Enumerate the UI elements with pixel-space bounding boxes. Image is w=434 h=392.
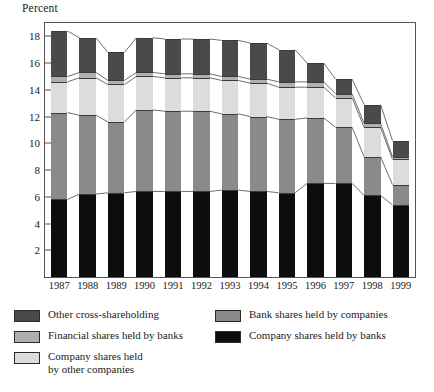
bar-1990 [136,23,153,277]
y-tick-label: 10 [29,137,40,149]
x-tick-label-1989: 1989 [106,280,127,291]
bar-segment [393,159,410,184]
bar-segment [165,111,182,191]
bar-segment [364,157,381,196]
bar-segment [51,199,68,277]
bar-segment [51,31,68,76]
bar-1991 [165,23,182,277]
x-tick-label-1998: 1998 [362,280,383,291]
bar-1999 [393,23,410,277]
legend-item: Bank shares held by companies [215,308,434,329]
bar-segment [193,74,210,78]
legend-column-left: Other cross-shareholdingFinancial shares… [14,308,224,380]
bar-segment [165,191,182,277]
bar-segment [165,39,182,74]
bar-segment [51,113,68,200]
stacked-bar-chart: Percent 24681012141618 19871988198919901… [0,0,434,392]
bar-segment [279,119,296,193]
y-tick-label: 12 [29,111,40,123]
bar-segment [364,127,381,156]
bar-segment [279,87,296,119]
bar-1992 [193,23,210,277]
bar-segment [250,43,267,79]
bar-segment [393,141,410,157]
x-tick-label-1993: 1993 [220,280,241,291]
legend-item: Other cross-shareholding [14,308,224,329]
legend-swatch [215,310,241,322]
bar-segment [222,114,239,190]
bar-1997 [336,23,353,277]
bar-segment [279,50,296,82]
bar-1987 [51,23,68,277]
bar-segment [136,191,153,277]
bar-segment [307,183,324,277]
plot-area: 24681012141618 [44,22,416,278]
bar-segment [165,74,182,78]
y-tick-label: 4 [35,218,41,230]
bar-1996 [307,23,324,277]
chart-legend: Other cross-shareholdingFinancial shares… [14,308,426,378]
legend-swatch [14,331,40,343]
bar-segment [193,191,210,277]
legend-column-right: Bank shares held by companiesCompany sha… [215,308,434,350]
y-tick-label: 6 [35,191,41,203]
y-tick-label: 8 [35,164,41,176]
legend-item: Company shares held by banks [215,329,434,350]
y-tick-label: 14 [29,84,40,96]
bar-segment [108,52,125,80]
bar-segment [279,82,296,87]
bar-segment [136,76,153,109]
bar-segment [136,110,153,192]
legend-item: Company shares heldby other companies [14,350,224,380]
legend-label: Other cross-shareholding [48,308,159,321]
bar-segment [136,72,153,76]
bar-segment [250,79,267,83]
bar-segment [307,63,324,82]
bar-1989 [108,23,125,277]
legend-label: Financial shares held by banks [48,329,183,342]
legend-swatch [14,310,40,322]
bar-segment [307,118,324,184]
bar-segment [250,117,267,192]
bar-segment [193,39,210,74]
x-tick-label-1994: 1994 [248,280,269,291]
bar-segment [193,111,210,191]
bar-segment [364,123,381,127]
bar-segment [108,193,125,277]
y-tick-label: 18 [29,30,40,42]
x-tick-label-1990: 1990 [134,280,155,291]
x-tick-label-1988: 1988 [77,280,98,291]
bar-segment [108,122,125,193]
x-tick-label-1995: 1995 [276,280,297,291]
bar-segment [222,76,239,80]
bar-segment [336,127,353,183]
bar-1993 [222,23,239,277]
bar-segment [193,78,210,111]
bar-segment [393,185,410,205]
x-tick-label-1996: 1996 [305,280,326,291]
bar-segment [79,38,96,73]
bar-segment [222,190,239,277]
bar-segment [250,191,267,277]
bar-segment [108,80,125,84]
bar-segment [307,82,324,87]
bar-segment [79,72,96,77]
bar-segment [165,78,182,111]
bar-segment [136,38,153,73]
bar-segment [250,83,267,116]
x-tick-label-1991: 1991 [163,280,184,291]
bar-1995 [279,23,296,277]
bar-segment [336,183,353,277]
bar-segment [51,82,68,113]
legend-item: Financial shares held by banks [14,329,224,350]
bar-segment [393,205,410,277]
legend-swatch [14,352,40,364]
bar-segment [79,115,96,194]
bar-1998 [364,23,381,277]
bar-segment [222,80,239,113]
bar-1988 [79,23,96,277]
y-axis-title: Percent [22,2,58,14]
bar-segment [393,157,410,160]
bar-segment [336,94,353,98]
x-tick-label-1992: 1992 [191,280,212,291]
